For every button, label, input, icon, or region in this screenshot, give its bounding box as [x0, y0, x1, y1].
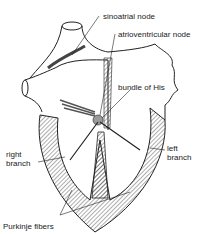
label-bundle-of-his: bundle of His: [118, 83, 165, 92]
vessel-side: [22, 80, 28, 96]
label-left-branch-2: branch: [167, 153, 191, 162]
vena-cava-top: [62, 22, 82, 30]
label-atrioventricular-node: atrioventricular node: [118, 30, 190, 39]
septum: [92, 132, 108, 198]
label-purkinje-fibers: Purkinje fibers: [3, 222, 54, 231]
label-right-branch-2: branch: [6, 159, 30, 168]
label-sinoatrial-node: sinoatrial node: [103, 12, 155, 21]
label-right-branch-1: right: [6, 150, 22, 159]
label-left-branch-1: left: [167, 144, 178, 153]
